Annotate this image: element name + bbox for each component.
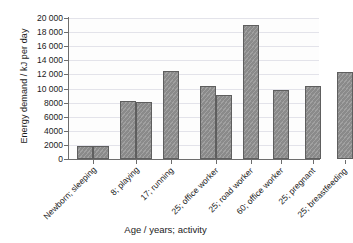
x-axis-tick <box>216 160 217 164</box>
bar <box>273 90 289 159</box>
x-axis-title: Age / years; activity <box>0 224 331 235</box>
y-axis-tick-label: 18 000 <box>15 28 63 36</box>
gridline <box>69 32 319 33</box>
y-axis-tick-label: 20 000 <box>15 14 63 22</box>
x-axis-tick-label: 8; playing <box>109 166 141 198</box>
bar <box>136 102 152 159</box>
y-axis-tick <box>64 46 69 47</box>
y-axis-tick <box>64 18 69 19</box>
gridline <box>69 18 319 19</box>
y-axis-tick <box>64 89 69 90</box>
x-axis-tick <box>345 160 346 164</box>
plot-area <box>69 18 319 159</box>
bar <box>77 146 93 159</box>
y-axis-tick <box>64 131 69 132</box>
gridline <box>69 46 319 47</box>
x-axis-line <box>68 159 320 160</box>
bar <box>200 86 216 159</box>
gridline <box>69 74 319 75</box>
gridline <box>69 60 319 61</box>
y-axis-tick <box>64 74 69 75</box>
x-axis-tick <box>251 160 252 164</box>
y-axis-tick <box>64 117 69 118</box>
bar <box>93 146 109 159</box>
y-axis-tick <box>64 159 69 160</box>
y-axis-tick <box>64 60 69 61</box>
bar <box>243 25 259 159</box>
y-axis-tick <box>64 103 69 104</box>
y-axis-tick <box>64 145 69 146</box>
y-axis-tick-label: 8000 <box>15 99 63 107</box>
y-axis-tick-label: 0 <box>15 155 63 163</box>
x-axis-tick <box>281 160 282 164</box>
bar <box>120 101 136 160</box>
x-axis-tick <box>313 160 314 164</box>
y-axis-tick-label: 6000 <box>15 113 63 121</box>
y-axis-tick-label: 4000 <box>15 127 63 135</box>
x-axis-tick-label: 17; running <box>139 166 175 202</box>
y-axis-tick-label: 16 000 <box>15 42 63 50</box>
y-axis-tick-label: 12 000 <box>15 70 63 78</box>
bar <box>216 95 232 160</box>
y-axis-tick-label: 14 000 <box>15 56 63 64</box>
bar <box>163 71 179 159</box>
bar <box>337 72 353 159</box>
x-axis-tick <box>171 160 172 164</box>
y-axis-tick-label: 2000 <box>15 141 63 149</box>
y-axis-tick <box>64 32 69 33</box>
y-axis-tick-label: 10 000 <box>15 85 63 93</box>
x-axis-tick <box>93 160 94 164</box>
x-axis-tick <box>136 160 137 164</box>
bar <box>305 86 321 159</box>
